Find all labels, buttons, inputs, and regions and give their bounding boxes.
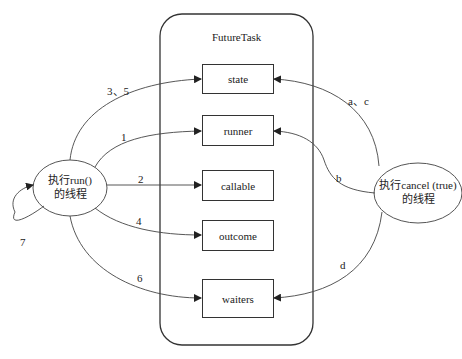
run-thread-label: 执行run() 的线程	[33, 170, 107, 206]
field-state: state	[202, 64, 274, 94]
cancel-thread-line2: 的线程	[402, 193, 435, 207]
field-runner: runner	[202, 115, 274, 146]
edge-label-6: 6	[137, 273, 143, 284]
field-waiters-label: waiters	[222, 293, 254, 305]
edge-run-to-waiters	[70, 216, 201, 298]
run-thread-line2: 的线程	[54, 188, 87, 202]
edge-label-4: 4	[136, 216, 142, 227]
edge-label-2: 2	[138, 174, 144, 185]
container-title: FutureTask	[212, 32, 261, 43]
edge-cancel-to-waiters	[274, 212, 382, 298]
field-callable: callable	[202, 170, 274, 201]
cancel-thread-line1: 执行cancel (true)	[379, 179, 456, 193]
field-outcome: outcome	[202, 220, 274, 251]
cancel-thread-label: 执行cancel (true) 的线程	[374, 175, 462, 211]
edge-label-3-5: 3、5	[107, 86, 129, 97]
field-outcome-label: outcome	[219, 230, 257, 242]
field-runner-label: runner	[224, 125, 253, 137]
edge-label-d: d	[340, 260, 346, 271]
field-waiters: waiters	[202, 279, 274, 318]
edge-run-to-runner	[95, 131, 201, 167]
edge-run-to-outcome	[95, 208, 201, 235]
run-thread-line1: 执行run()	[48, 174, 92, 188]
edge-label-1: 1	[121, 132, 127, 143]
field-state-label: state	[228, 73, 248, 85]
edge-label-7: 7	[20, 237, 26, 248]
edge-run-to-state	[70, 79, 201, 160]
edge-cancel-to-runner	[274, 131, 375, 193]
edge-cancel-to-state	[274, 79, 379, 166]
edge-label-a-c: a、c	[348, 96, 369, 107]
edge-label-b: b	[336, 173, 342, 184]
field-callable-label: callable	[221, 180, 255, 192]
